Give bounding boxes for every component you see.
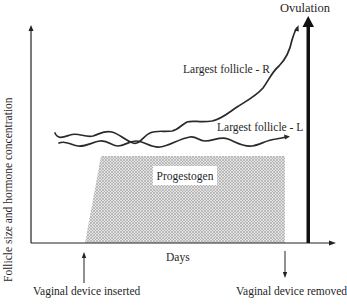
progestogen-label: Progestogen bbox=[153, 166, 217, 185]
ovulation-arrow bbox=[303, 16, 315, 243]
up-arrow-icon bbox=[82, 252, 86, 258]
inserted-arrow bbox=[82, 252, 86, 283]
x-axis-arrow-icon bbox=[329, 241, 336, 246]
inserted-label: Vaginal device inserted bbox=[33, 286, 140, 298]
largest-follicle-l-label: Largest follicle - L bbox=[217, 122, 303, 134]
y-axis bbox=[29, 25, 34, 243]
removed-arrow bbox=[283, 251, 287, 278]
removed-label: Vaginal device removed bbox=[236, 286, 347, 298]
ovulation-label: Ovulation bbox=[280, 2, 330, 15]
y-axis-label: Follicle size and hormone concentration bbox=[2, 22, 14, 282]
x-axis-label: Days bbox=[166, 252, 190, 264]
curve-r-arrowhead-icon bbox=[294, 25, 299, 32]
curve-largest-follicle-l bbox=[59, 137, 286, 147]
down-arrow-icon bbox=[283, 272, 287, 278]
ovulation-arrow-icon bbox=[303, 16, 315, 27]
largest-follicle-r-label: Largest follicle - R bbox=[183, 64, 270, 76]
curve-l-arrowhead-icon bbox=[284, 135, 290, 140]
y-axis-arrow-icon bbox=[29, 25, 34, 31]
